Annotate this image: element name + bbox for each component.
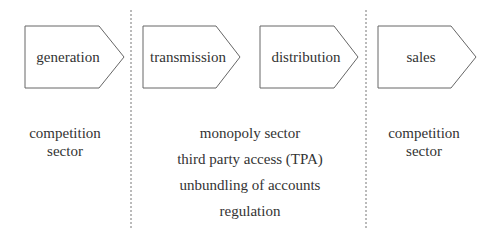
- sector-middle-item: unbundling of accounts: [135, 172, 365, 198]
- sector-left-line1: competition: [15, 124, 115, 142]
- sector-middle-item: regulation: [135, 198, 365, 224]
- sector-left: competition sector: [15, 124, 115, 160]
- sector-middle: monopoly sector third party access (TPA)…: [135, 120, 365, 224]
- sector-right-line1: competition: [374, 124, 474, 142]
- sector-right: competition sector: [374, 124, 474, 160]
- sector-left-line2: sector: [15, 142, 115, 160]
- stage-label-distribution: distribution: [263, 48, 349, 66]
- sector-middle-item: third party access (TPA): [135, 146, 365, 172]
- stage-label-generation: generation: [28, 48, 108, 66]
- sector-right-line2: sector: [374, 142, 474, 160]
- stage-label-sales: sales: [381, 48, 461, 66]
- sector-middle-item: monopoly sector: [135, 120, 365, 146]
- stage-label-transmission: transmission: [145, 48, 231, 66]
